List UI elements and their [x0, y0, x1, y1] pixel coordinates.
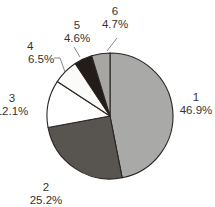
slice-label-5: 5 4.6%: [59, 19, 95, 45]
slice-label-3: 3 12.1%: [0, 92, 30, 118]
slice-name-3: 3: [0, 92, 30, 105]
slice-label-4: 4 6.5%: [24, 40, 58, 66]
slice-name-4: 4: [24, 40, 58, 53]
slice-label-2: 2 25.2%: [28, 181, 64, 207]
slice-name-6: 6: [97, 5, 133, 18]
slice-pct-4: 6.5%: [24, 53, 58, 66]
slice-name-1: 1: [178, 91, 214, 104]
slice-name-2: 2: [28, 181, 64, 194]
slice-pct-3: 12.1%: [0, 105, 30, 118]
slice-label-6: 6 4.7%: [97, 5, 133, 31]
slice-name-5: 5: [59, 19, 95, 32]
slice-pct-1: 46.9%: [178, 104, 214, 117]
pie-slices: [47, 53, 173, 179]
slice-pct-2: 25.2%: [28, 194, 64, 207]
leader-line-6: [107, 38, 117, 51]
pie-slice-1: [110, 53, 173, 178]
slice-pct-6: 4.7%: [97, 18, 133, 31]
slice-label-1: 1 46.9%: [178, 91, 214, 117]
leader-line-5: [74, 47, 80, 57]
slice-pct-5: 4.6%: [59, 32, 95, 45]
